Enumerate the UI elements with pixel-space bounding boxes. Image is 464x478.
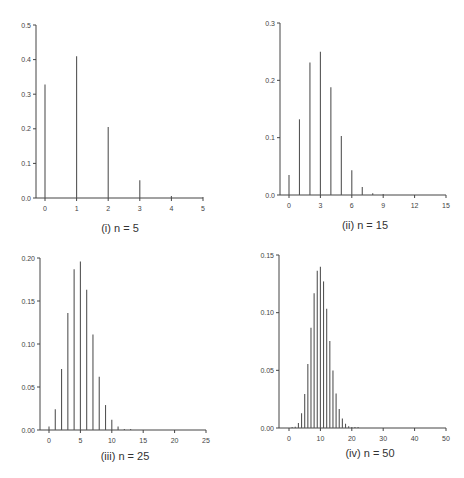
x-tick-label: 12: [411, 202, 419, 209]
x-tick-label: 10: [317, 435, 325, 442]
y-tick-label: 0.15: [21, 298, 35, 305]
chart-caption: (iii) n = 25: [101, 450, 150, 462]
chart-panel-3: 0.000.050.100.150.200510152025(iii) n = …: [21, 255, 210, 463]
y-tick-label: 0.2: [21, 125, 31, 132]
x-tick-label: 6: [350, 202, 354, 209]
x-tick-label: 0: [47, 437, 51, 444]
y-tick-label: 0.5: [21, 22, 31, 29]
x-tick-label: 9: [381, 202, 385, 209]
chart-caption: (iv) n = 50: [345, 447, 394, 459]
y-tick-label: 0.20: [21, 255, 35, 262]
x-tick-label: 20: [348, 435, 356, 442]
y-tick-label: 0.00: [260, 425, 274, 432]
x-tick-label: 0: [43, 205, 47, 212]
y-tick-label: 0.0: [265, 192, 275, 199]
y-tick-label: 0.05: [21, 384, 35, 391]
y-tick-label: 0.00: [21, 427, 35, 434]
y-tick-label: 0.3: [265, 20, 275, 27]
chart-caption: (ii) n = 15: [342, 219, 388, 231]
x-tick-label: 3: [318, 202, 322, 209]
y-tick-label: 0.15: [260, 252, 274, 259]
y-tick-label: 0.10: [260, 309, 274, 316]
x-tick-label: 15: [442, 202, 450, 209]
x-tick-label: 5: [201, 205, 205, 212]
x-tick-label: 4: [169, 205, 173, 212]
y-tick-label: 0.05: [260, 367, 274, 374]
x-tick-label: 30: [379, 435, 387, 442]
x-tick-label: 0: [287, 202, 291, 209]
y-tick-label: 0.1: [265, 134, 275, 141]
chart-caption: (i) n = 5: [101, 222, 139, 234]
x-tick-label: 10: [108, 437, 116, 444]
chart-panel-1: 0.00.10.20.30.40.5012345(i) n = 5: [21, 22, 205, 235]
x-tick-label: 15: [139, 437, 147, 444]
y-tick-label: 0.1: [21, 160, 31, 167]
x-tick-label: 0: [287, 435, 291, 442]
x-tick-label: 1: [75, 205, 79, 212]
x-tick-label: 5: [78, 437, 82, 444]
x-tick-label: 25: [202, 437, 210, 444]
x-tick-label: 20: [171, 437, 179, 444]
chart-panel-2: 0.00.10.20.303691215(ii) n = 15: [265, 20, 450, 232]
y-tick-label: 0.10: [21, 341, 35, 348]
binomial-distribution-charts: 0.00.10.20.30.40.5012345(i) n = 50.00.10…: [0, 0, 464, 478]
chart-panel-4: 0.000.050.100.1501020304050(iv) n = 50: [260, 252, 450, 460]
x-tick-label: 40: [411, 435, 419, 442]
y-tick-label: 0.4: [21, 56, 31, 63]
x-tick-label: 3: [138, 205, 142, 212]
y-tick-label: 0.2: [265, 77, 275, 84]
x-tick-label: 50: [442, 435, 450, 442]
x-tick-label: 2: [106, 205, 110, 212]
y-tick-label: 0.3: [21, 91, 31, 98]
y-tick-label: 0.0: [21, 195, 31, 202]
